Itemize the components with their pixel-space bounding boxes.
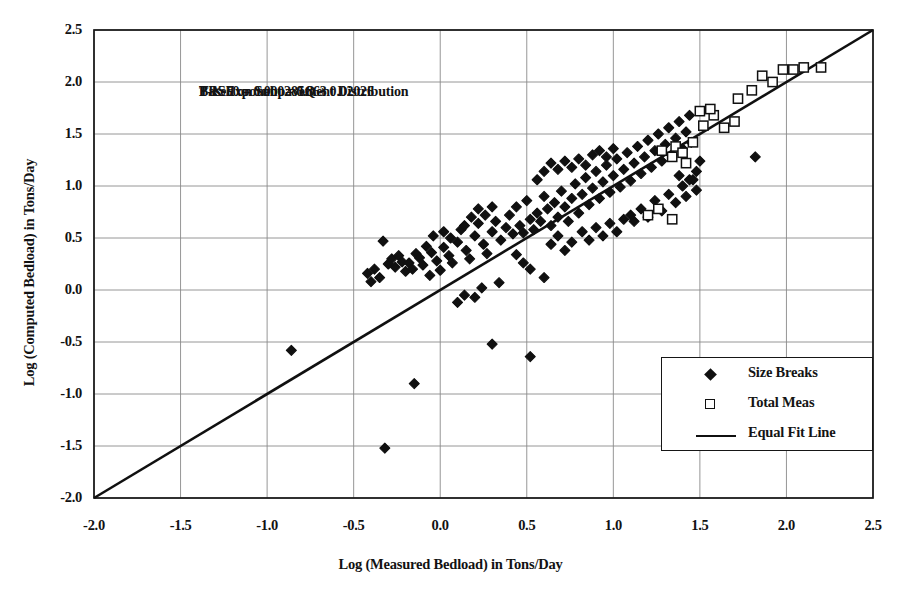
filled-diamond-icon — [696, 368, 732, 384]
y-tick-label: -2.0 — [34, 489, 82, 506]
y-tick-label: -1.0 — [34, 385, 82, 402]
x-tick-label: 1.5 — [670, 517, 730, 534]
chart-figure: 2.52.01.51.00.50.0-0.5-1.0-1.5-2.0 -2.0-… — [0, 0, 901, 597]
scatter-plot-canvas — [0, 0, 901, 597]
x-tick-label: 0.5 — [497, 517, 557, 534]
legend-item-size-breaks: Size Breaks — [662, 360, 872, 390]
x-tick-label: -0.5 — [324, 517, 384, 534]
series-total-meas — [643, 63, 825, 224]
open-square-icon — [696, 398, 732, 414]
x-tick-label: 2.0 — [756, 517, 816, 534]
y-tick-label: 0.0 — [34, 281, 82, 298]
y-tick-label: 2.5 — [34, 21, 82, 38]
x-tick-label: 2.5 — [843, 517, 901, 534]
x-tick-label: 1.0 — [583, 517, 643, 534]
y-tick-label: 1.0 — [34, 177, 82, 194]
y-tick-label: 0.5 — [34, 229, 82, 246]
legend-item-equal-fit-line: Equal Fit Line — [662, 420, 872, 450]
line-swatch-icon — [696, 428, 732, 444]
y-tick-label: -0.5 — [34, 333, 82, 350]
y-tick-label: -1.5 — [34, 437, 82, 454]
y-tick-label: 1.5 — [34, 125, 82, 142]
chart-legend: Size Breaks Total Meas Equal Fit Line — [661, 357, 873, 451]
legend-label-total-meas: Total Meas — [748, 394, 814, 411]
legend-label-equal-fit-line: Equal Fit Line — [748, 424, 835, 441]
x-tick-label: -2.0 — [64, 517, 124, 534]
x-axis-title: Log (Measured Bedload) in Tons/Day — [0, 556, 901, 573]
x-tick-label: 0.0 — [410, 517, 470, 534]
x-tick-label: -1.5 — [151, 517, 211, 534]
annotation-line-3: P-K Exponent = 0.863 — [199, 82, 327, 103]
legend-item-total-meas: Total Meas — [662, 390, 872, 420]
x-tick-label: -1.0 — [237, 517, 297, 534]
y-tick-label: 2.0 — [34, 73, 82, 90]
legend-label-size-breaks: Size Breaks — [748, 364, 818, 381]
y-axis-title: Log (Computed Bedload) in Tons/Day — [21, 38, 38, 508]
